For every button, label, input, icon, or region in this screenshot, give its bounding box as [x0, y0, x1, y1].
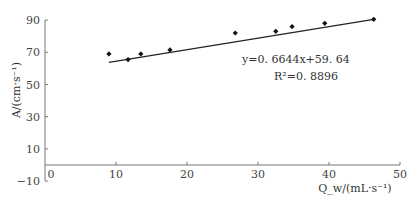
y-tick-label: 30	[26, 111, 40, 124]
data-point-diamond	[289, 24, 294, 29]
data-point-diamond	[233, 30, 238, 35]
x-tick-label: 0	[48, 168, 55, 181]
data-point-diamond	[371, 17, 376, 22]
x-axis-label: Q_w/(mL·s⁻¹)	[318, 182, 391, 195]
scatter-chart: −10103050709001020304050 y=0. 6644x+59. …	[0, 0, 420, 202]
x-tick-label: 10	[109, 168, 123, 181]
y-tick-label: 50	[26, 79, 40, 92]
x-tick-label: 30	[251, 168, 265, 181]
x-tick-label: 40	[322, 168, 336, 181]
y-tick-label: −10	[17, 175, 40, 188]
axes: −10103050709001020304050	[17, 14, 407, 188]
r-squared-label: R²=0. 8896	[274, 70, 338, 83]
y-axis-label: A/(cm·s⁻¹)	[10, 62, 23, 119]
regression-equation: y=0. 6644x+59. 64	[241, 53, 350, 66]
x-tick-label: 20	[180, 168, 194, 181]
y-tick-label: 10	[26, 143, 40, 156]
y-tick-label: 70	[26, 46, 40, 59]
data-point-diamond	[138, 51, 143, 56]
y-tick-label: 90	[26, 14, 40, 27]
x-tick-label: 50	[393, 168, 407, 181]
data-point-diamond	[106, 51, 111, 56]
data-point-diamond	[125, 57, 130, 62]
data-point-diamond	[322, 21, 327, 26]
data-point-diamond	[273, 29, 278, 34]
